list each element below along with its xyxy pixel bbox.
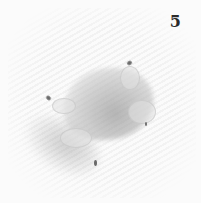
blob-lobe-top [120,66,140,90]
tip-dot-right [145,122,147,126]
blob-lobe-right [128,100,156,124]
blob-lobe-bottom [60,128,92,148]
blob-lobe-left [52,98,76,114]
illustration-canvas: 5 [0,0,201,203]
page-number-label: 5 [170,12,181,31]
tip-dot-bottom [94,160,97,166]
